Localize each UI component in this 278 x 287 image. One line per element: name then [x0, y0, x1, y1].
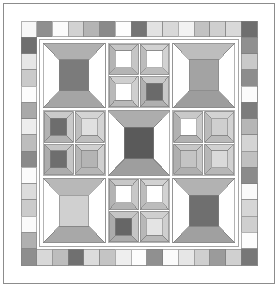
border-cell-top	[115, 21, 131, 37]
border-cell-left	[21, 151, 37, 167]
block-corner-bottom-left-center	[59, 195, 89, 226]
quilt-illustration	[0, 0, 278, 287]
border-cell-top	[210, 21, 226, 37]
border-cell-left	[21, 102, 37, 118]
border-cell-left	[21, 200, 37, 216]
border-cell-bottom	[178, 249, 194, 265]
border-cell-top	[84, 21, 100, 37]
block-edge-bottom-unit-3-center	[115, 218, 131, 235]
block-edge-right-unit-3-center	[180, 151, 196, 168]
border-cell-bottom	[100, 249, 116, 265]
quilt-canvas	[0, 0, 278, 287]
block-center-medallion-center	[124, 127, 154, 158]
border-cell-left	[21, 37, 37, 53]
block-edge-right-unit-4-center	[211, 151, 227, 168]
border-cell-top	[37, 21, 53, 37]
block-edge-top-unit-3-center	[115, 83, 131, 100]
border-cell-top	[52, 21, 68, 37]
border-cell-bottom	[115, 249, 131, 265]
border-cell-bottom	[68, 249, 84, 265]
border-cell-right	[241, 184, 257, 200]
block-corner-top-left-center	[59, 60, 89, 91]
block-edge-left-unit-1-center	[50, 118, 66, 135]
border-cell-bottom	[147, 249, 163, 265]
border-cell-left	[21, 232, 37, 248]
border-cell-right	[241, 21, 257, 37]
border-cell-bottom	[163, 249, 179, 265]
border-cell-right	[241, 167, 257, 183]
border-cell-right	[241, 86, 257, 102]
border-cell-left	[21, 119, 37, 135]
block-edge-top-unit-2-center	[146, 51, 162, 68]
border-cell-left	[21, 21, 37, 37]
border-cell-top	[178, 21, 194, 37]
border-cell-bottom	[194, 249, 210, 265]
border-cell-right	[241, 54, 257, 70]
border-cell-left	[21, 167, 37, 183]
border-cell-left	[21, 86, 37, 102]
border-cell-bottom	[131, 249, 147, 265]
border-cell-left	[21, 216, 37, 232]
block-edge-left-unit-3-center	[50, 151, 66, 168]
block-edge-left-unit-4-center	[81, 151, 97, 168]
border-cell-left	[21, 184, 37, 200]
block-edge-left-unit-2-center	[81, 118, 97, 135]
border-cell-right	[241, 37, 257, 53]
border-cell-left	[21, 70, 37, 86]
border-cell-bottom	[84, 249, 100, 265]
border-cell-left	[21, 135, 37, 151]
block-corner-top-right-center	[189, 60, 219, 91]
border-cell-top	[131, 21, 147, 37]
border-cell-right	[241, 249, 257, 265]
block-edge-bottom-unit-2-center	[146, 186, 162, 203]
border-cell-left	[21, 54, 37, 70]
block-edge-top-unit-1-center	[115, 51, 131, 68]
border-cell-right	[241, 151, 257, 167]
border-cell-top	[194, 21, 210, 37]
border-cell-bottom	[37, 249, 53, 265]
border-cell-top	[147, 21, 163, 37]
border-cell-bottom	[52, 249, 68, 265]
border-cell-bottom	[226, 249, 242, 265]
border-cell-right	[241, 216, 257, 232]
block-corner-bottom-right-center	[189, 195, 219, 226]
block-edge-bottom-unit-1-center	[115, 186, 131, 203]
block-edge-right-unit-2-center	[211, 118, 227, 135]
block-edge-right-unit-1-center	[180, 118, 196, 135]
block-edge-top-unit-4-center	[146, 83, 162, 100]
border-cell-right	[241, 102, 257, 118]
border-cell-right	[241, 200, 257, 216]
border-cell-right	[241, 119, 257, 135]
border-cell-left	[21, 249, 37, 265]
border-cell-right	[241, 232, 257, 248]
border-cell-top	[163, 21, 179, 37]
border-cell-bottom	[210, 249, 226, 265]
border-cell-right	[241, 135, 257, 151]
border-cell-top	[226, 21, 242, 37]
block-edge-bottom-unit-4-center	[146, 218, 162, 235]
border-cell-top	[68, 21, 84, 37]
border-cell-top	[100, 21, 116, 37]
border-cell-right	[241, 70, 257, 86]
